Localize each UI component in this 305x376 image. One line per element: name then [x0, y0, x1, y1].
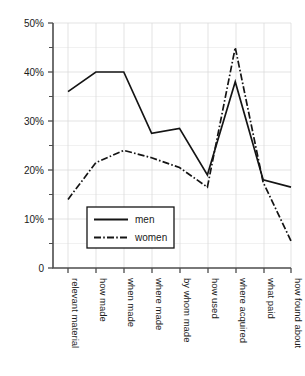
chart-figure: 50% 40% 30% 20% 10% 0 relevant material …: [0, 0, 305, 376]
y-tick-label-50: 50%: [24, 18, 44, 29]
y-tick-label-0: 0: [38, 263, 44, 274]
x-tick-label-how-made: how made: [98, 278, 109, 322]
x-axis-tick-labels: relevant material how made when made whe…: [70, 277, 304, 349]
x-tick-label-when-made: when made: [126, 277, 137, 327]
x-tick-label-where-made: where made: [154, 277, 165, 330]
grid-horizontal-major: [53, 23, 291, 219]
x-tick-label-how-found-about: how found about: [293, 278, 304, 349]
x-tick-label-by-whom-made: by whom made: [182, 278, 193, 342]
x-tick-label-relevant-material: relevant material: [70, 278, 81, 348]
x-tick-label-how-used: how used: [210, 278, 221, 319]
legend: men women: [87, 207, 174, 248]
y-tick-label-40: 40%: [24, 67, 44, 78]
x-tick-label-where-acquired: where acquired: [238, 277, 249, 343]
y-tick-label-20: 20%: [24, 165, 44, 176]
y-tick-label-30: 30%: [24, 116, 44, 127]
x-tick-label-what-paid: what paid: [266, 277, 277, 319]
y-tick-label-10: 10%: [24, 214, 44, 225]
line-chart: 50% 40% 30% 20% 10% 0 relevant material …: [0, 0, 305, 376]
legend-label-women: women: [134, 232, 167, 243]
y-axis-tick-labels: 50% 40% 30% 20% 10% 0: [24, 18, 44, 274]
legend-label-men: men: [135, 214, 154, 225]
